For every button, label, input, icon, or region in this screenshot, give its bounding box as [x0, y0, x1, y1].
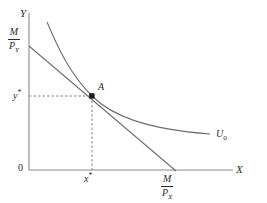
budget-line: [29, 46, 176, 171]
point-a-marker: [89, 93, 94, 98]
x-intercept-denominator-subscript: X: [168, 193, 172, 201]
y-intercept-denominator-subscript: Y: [15, 46, 19, 54]
point-a-label: A: [98, 82, 104, 92]
x-axis-label: X: [236, 164, 243, 175]
y-intercept-label-m-over-py: M PY: [8, 27, 20, 54]
utility-maximization-figure: Y X 0 M PY M PX y* x* A U0: [0, 0, 267, 203]
y-intercept-denominator: PY: [8, 41, 20, 54]
optimal-y-star: *: [17, 88, 21, 97]
indifference-curve-u0: [47, 22, 210, 134]
x-intercept-denominator: PX: [161, 188, 173, 201]
indifference-curve-subscript: 0: [223, 134, 227, 142]
indifference-curve-label: U0: [216, 129, 227, 142]
optimal-x-star: *: [88, 171, 92, 180]
optimal-y-label: y*: [13, 89, 21, 101]
origin-label: 0: [18, 163, 23, 173]
optimal-x-label: x*: [84, 172, 92, 184]
y-intercept-numerator: M: [8, 27, 20, 38]
y-axis-label: Y: [20, 8, 26, 19]
plot-canvas: [0, 0, 267, 203]
x-intercept-numerator: M: [161, 174, 173, 185]
x-intercept-label-m-over-px: M PX: [161, 174, 173, 201]
